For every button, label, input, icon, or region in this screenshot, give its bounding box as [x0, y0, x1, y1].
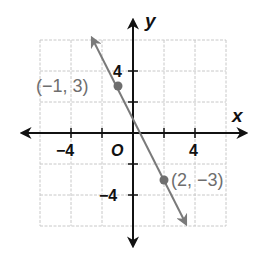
x-tick-label-neg4: −4 [56, 142, 74, 159]
y-axis-label: y [144, 10, 157, 31]
point-2-neg3 [160, 176, 169, 185]
point-label-2-neg3: (2, −3) [171, 170, 224, 190]
point-label-neg1-3: (−1, 3) [36, 76, 89, 96]
x-tick-label-pos4: 4 [189, 142, 198, 159]
origin-label: O [111, 142, 124, 159]
y-tick-label-pos4: 4 [113, 63, 122, 80]
y-tick-label-neg4: −4 [99, 187, 117, 204]
coordinate-plane: y x −4 O 4 4 −4 (−1, 3) (2, −3) [0, 0, 259, 253]
point-neg1-3 [114, 82, 123, 91]
x-axis-label: x [231, 105, 244, 126]
